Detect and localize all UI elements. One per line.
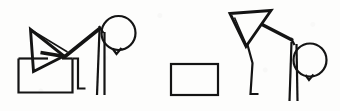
figure-right xyxy=(230,11,327,102)
right-figure-arm xyxy=(262,25,293,41)
line-drawing-svg: Two stick figures with geometric heads a… xyxy=(0,0,340,111)
left-figure-arm xyxy=(31,28,102,57)
left-figure-foot xyxy=(73,59,86,89)
right-figure-head-circle xyxy=(294,44,327,77)
standalone-rectangle xyxy=(171,64,218,95)
left-figure-box xyxy=(19,59,73,93)
left-figure-head-circle xyxy=(102,16,136,50)
right-figure-triangle-head xyxy=(230,11,271,47)
left-figure-arrow-head xyxy=(31,30,65,72)
figure-left xyxy=(19,16,136,95)
left-figure-leg-front xyxy=(97,30,100,95)
right-figure-body xyxy=(247,43,259,94)
right-figure-leg-front xyxy=(290,42,292,101)
drawing-canvas: Two stick figures with geometric heads a… xyxy=(0,0,340,111)
right-figure-leg-back xyxy=(297,44,298,101)
